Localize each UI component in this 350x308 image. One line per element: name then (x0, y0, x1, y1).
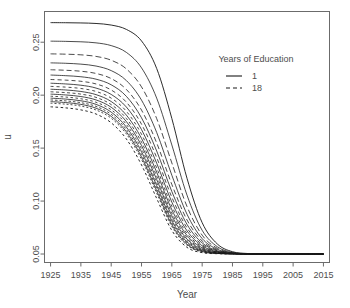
x-tick-label: 1995 (253, 270, 273, 280)
line-chart: 1925193519451955196519751985199520052015… (0, 0, 350, 308)
y-axis-title: u (2, 134, 13, 140)
legend-label-first: 1 (252, 71, 257, 81)
x-tick-label: 1935 (71, 270, 91, 280)
legend-title: Years of Education (218, 54, 293, 64)
x-tick-label: 1945 (101, 270, 121, 280)
x-tick-label: 1965 (162, 270, 182, 280)
x-tick-label: 1975 (192, 270, 212, 280)
legend-label-last: 18 (252, 83, 262, 93)
x-tick-label: 1955 (132, 270, 152, 280)
y-tick-label: 0.05 (32, 245, 42, 263)
x-tick-label: 2005 (283, 270, 303, 280)
x-tick-label: 1925 (41, 270, 61, 280)
y-tick-label: 0.20 (32, 86, 42, 104)
y-tick-label: 0.25 (32, 33, 42, 51)
x-tick-label: 2015 (313, 270, 333, 280)
chart-root: 1925193519451955196519751985199520052015… (0, 0, 350, 308)
x-tick-label: 1985 (222, 270, 242, 280)
y-tick-label: 0.15 (32, 139, 42, 157)
x-axis-title: Year (177, 289, 198, 300)
y-tick-label: 0.10 (32, 192, 42, 210)
